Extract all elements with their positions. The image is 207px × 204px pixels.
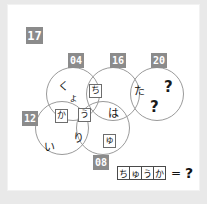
kana-ku: く	[58, 81, 69, 92]
kana-yo-small: ょ	[69, 94, 78, 103]
kana-u-boxed: う	[78, 108, 91, 122]
unknown-mark-2: ?	[164, 80, 173, 95]
venn-diagram: 04 16 20 12 08 く ょ ち か う は り ゅ い た ? ?	[8, 5, 199, 190]
answer-row: ち ゅ う か = ?	[117, 165, 193, 181]
kana-i: い	[44, 142, 55, 153]
puzzle-card: 17 04 16 20 12 08 く ょ ち か う は り ゅ い た ? …	[8, 5, 199, 190]
kana-ta: た	[134, 86, 145, 97]
venn-label-08: 08	[93, 155, 109, 170]
kana-chi-boxed: ち	[89, 84, 102, 98]
kana-yu-boxed: ゅ	[103, 134, 116, 148]
venn-label-12: 12	[22, 111, 38, 126]
equals-sign: =	[171, 166, 181, 180]
kana-ha: は	[108, 108, 119, 119]
answer-cells: ち ゅ う か	[117, 166, 165, 180]
kana-ka-boxed: か	[55, 109, 68, 123]
answer-cell-4: か	[153, 166, 166, 180]
unknown-mark-1: ?	[150, 100, 159, 115]
venn-label-16: 16	[110, 53, 126, 68]
venn-label-20: 20	[151, 53, 167, 68]
venn-label-04: 04	[68, 53, 84, 68]
answer-unknown: ?	[185, 165, 193, 181]
kana-ri: り	[73, 133, 84, 144]
